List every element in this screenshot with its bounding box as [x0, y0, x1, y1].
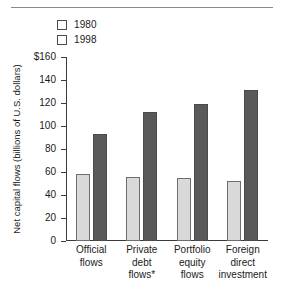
y-axis-tick	[61, 172, 66, 173]
legend-label-1980: 1980	[74, 20, 97, 30]
y-axis-tick-label: 40	[13, 188, 56, 201]
bar-1980-4	[227, 181, 241, 241]
bar-1980-1	[76, 174, 90, 241]
y-axis-tick-label: $160	[13, 50, 56, 63]
y-axis-tick-label: 20	[13, 211, 56, 224]
bar-1980-3	[177, 178, 191, 241]
legend-label-1998: 1998	[74, 35, 97, 45]
x-axis-category-label: Foreign direct investment	[218, 244, 269, 282]
y-axis-tick	[61, 80, 66, 81]
bar-1980-2	[126, 177, 140, 241]
y-axis-tick	[61, 149, 66, 150]
y-axis-tick	[61, 218, 66, 219]
y-axis-tick	[61, 103, 66, 104]
legend-item-1980: 1980	[57, 18, 147, 31]
y-axis-tick	[61, 126, 66, 127]
y-axis-tick	[61, 195, 66, 196]
bar-group	[177, 57, 208, 241]
y-axis-tick-label: 120	[13, 96, 56, 109]
legend-swatch-1998	[57, 35, 67, 45]
x-axis-category-label: Private debt flows*	[117, 244, 168, 282]
y-axis-tick-label: 0	[13, 234, 56, 247]
bar-1998-3	[194, 104, 208, 241]
bar-chart-figure: 1980 1998 Net capital flows (billions of…	[0, 0, 282, 293]
y-axis-tick	[61, 241, 66, 242]
legend-swatch-1980	[57, 20, 67, 30]
legend-item-1998: 1998	[57, 33, 147, 46]
y-axis-line	[66, 57, 67, 241]
bar-group	[76, 57, 107, 241]
x-axis-category-label: Official flows	[66, 244, 117, 269]
bar-1998-4	[244, 90, 258, 241]
top-divider-rule	[11, 7, 273, 8]
y-axis-tick-label: 60	[13, 165, 56, 178]
y-axis-tick-label: 100	[13, 119, 56, 132]
bar-group	[227, 57, 258, 241]
plot-area: 020406080100120140$160 Official flowsPri…	[66, 57, 268, 241]
y-axis-tick-label: 80	[13, 142, 56, 155]
y-axis-tick-label: 140	[13, 73, 56, 86]
x-axis-category-label: Portfolio equity flows	[167, 244, 218, 282]
y-axis-tick	[61, 57, 66, 58]
bar-group	[126, 57, 157, 241]
chart-legend: 1980 1998	[57, 18, 147, 48]
bar-1998-2	[143, 112, 157, 241]
bar-1998-1	[93, 134, 107, 241]
